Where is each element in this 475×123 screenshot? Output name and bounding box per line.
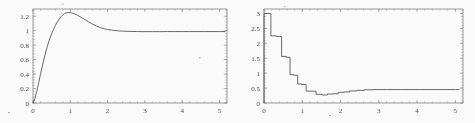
x-tick-label: 3 bbox=[377, 107, 381, 115]
y-tick-label: 1.5 bbox=[251, 55, 260, 63]
left-plot-frame bbox=[33, 9, 227, 103]
y-tick-label: 1 bbox=[257, 70, 261, 78]
right-plot-series bbox=[264, 13, 459, 103]
y-tick-label: 2 bbox=[257, 40, 261, 48]
right-plot-tick-labels: 01234500.511.522.53 bbox=[251, 10, 457, 115]
x-tick-label: 3 bbox=[143, 107, 147, 115]
x-tick-label: 1 bbox=[69, 107, 73, 115]
y-tick-label: 0.6 bbox=[20, 56, 29, 64]
x-tick-label: 2 bbox=[339, 107, 343, 115]
chart-panel-right: 01234500.511.522.53 bbox=[237, 0, 475, 123]
left-plot-canvas: 01234500.20.40.60.811.2 bbox=[0, 0, 237, 123]
y-tick-label: 2.5 bbox=[251, 25, 260, 33]
left-plot-series bbox=[33, 12, 225, 103]
x-tick-label: 0 bbox=[31, 107, 35, 115]
y-tick-label: 1.2 bbox=[20, 13, 29, 21]
x-tick-label: 4 bbox=[180, 107, 184, 115]
y-tick-label: 0.4 bbox=[20, 71, 29, 79]
x-tick-label: 1 bbox=[301, 107, 305, 115]
y-tick-label: 0.5 bbox=[251, 85, 260, 93]
y-tick-label: 0 bbox=[26, 100, 30, 108]
y-tick-label: 0.2 bbox=[20, 85, 29, 93]
y-tick-label: 0.8 bbox=[20, 42, 29, 50]
right-plot-ticks bbox=[264, 9, 463, 103]
x-tick-label: 4 bbox=[415, 107, 419, 115]
x-tick-label: 2 bbox=[106, 107, 110, 115]
scan-specks-left bbox=[8, 4, 201, 113]
x-tick-label: 5 bbox=[218, 107, 222, 115]
y-tick-label: 0 bbox=[257, 100, 261, 108]
y-tick-label: 3 bbox=[257, 10, 261, 18]
chart-panel-left: 01234500.20.40.60.811.2 bbox=[0, 0, 237, 123]
right-plot-canvas: 01234500.511.522.53 bbox=[237, 0, 475, 123]
right-plot-frame bbox=[264, 9, 463, 103]
left-plot-tick-labels: 01234500.20.40.60.811.2 bbox=[20, 13, 222, 115]
scan-specks-right bbox=[284, 6, 331, 116]
x-tick-label: 0 bbox=[262, 107, 266, 115]
y-tick-label: 1 bbox=[26, 27, 30, 35]
x-tick-label: 5 bbox=[454, 107, 458, 115]
figure-root: 01234500.20.40.60.811.2 01234500.511.522… bbox=[0, 0, 475, 123]
left-plot-ticks bbox=[33, 9, 227, 103]
